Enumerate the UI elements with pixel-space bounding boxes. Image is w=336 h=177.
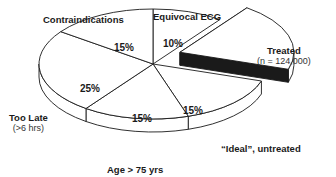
label-too-late: Too Late (>6 hrs) xyxy=(9,112,48,134)
label-contraindications: Contraindications xyxy=(43,14,124,25)
pct-treated: 20% xyxy=(221,63,241,74)
label-ideal-untreated: “Ideal”, untreated xyxy=(221,143,301,154)
pct-age-over-75: 15% xyxy=(132,113,152,124)
label-age-over-75: Age > 75 yrs xyxy=(107,164,163,175)
pct-too-late: 25% xyxy=(80,83,100,94)
label-treated: Treated (n = 124,000) xyxy=(257,45,311,67)
label-equivocal-ecg: Equivocal ECG xyxy=(153,11,221,22)
pct-equivocal-ecg: 10% xyxy=(163,38,183,49)
pct-ideal-untreated: 15% xyxy=(183,105,203,116)
pct-contraindications: 15% xyxy=(114,42,134,53)
